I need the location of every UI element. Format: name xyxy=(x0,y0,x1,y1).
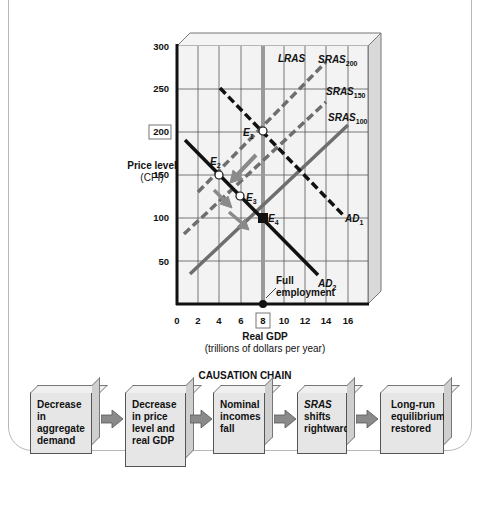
chain-arrow-1 xyxy=(101,410,123,428)
chain-step-3: Nominalincomesfall xyxy=(213,392,265,454)
point-full-employment xyxy=(259,300,267,308)
svg-text:50: 50 xyxy=(158,256,169,267)
x-axis-label: Real GDP (trillions of dollars per year) xyxy=(160,331,370,355)
point-e1 xyxy=(259,127,267,135)
chain-arrow-2 xyxy=(190,410,212,428)
svg-text:10: 10 xyxy=(279,315,290,326)
svg-text:8: 8 xyxy=(260,315,265,326)
label-employment: employment xyxy=(276,287,336,298)
chain-step-2: Decreasein pricelevel andreal GDP xyxy=(125,392,186,467)
svg-text:200: 200 xyxy=(153,126,169,137)
svg-text:16: 16 xyxy=(343,315,354,326)
label-lras: LRAS xyxy=(278,53,306,64)
point-e2 xyxy=(215,171,223,179)
y-tick-labels: 300 250 200 150 100 50 xyxy=(153,41,169,267)
chain-arrow-3 xyxy=(274,410,296,428)
y-axis-label: Price level (CPI) xyxy=(112,160,192,184)
svg-text:0: 0 xyxy=(174,315,179,326)
svg-text:250: 250 xyxy=(153,83,169,94)
svg-text:4: 4 xyxy=(216,315,222,326)
chain-arrow-4 xyxy=(356,410,378,428)
chain-step-4: SRASshiftsrightward xyxy=(297,392,347,454)
chain-step-1: Decrease inaggregatedemand xyxy=(30,392,92,454)
plot-box-top xyxy=(177,33,381,46)
svg-text:6: 6 xyxy=(238,315,243,326)
point-e3 xyxy=(236,192,244,200)
causation-chain-title: CAUSATION CHAIN xyxy=(150,370,340,381)
svg-text:300: 300 xyxy=(153,41,169,52)
x-tick-labels: 0 2 4 6 8 10 12 14 16 xyxy=(174,315,353,326)
svg-text:14: 14 xyxy=(321,315,332,326)
svg-text:100: 100 xyxy=(153,212,169,223)
chain-step-5: Long-runequilibriumrestored xyxy=(380,392,444,454)
point-e4 xyxy=(258,213,268,223)
plot-box-side xyxy=(368,33,381,304)
svg-text:12: 12 xyxy=(300,315,311,326)
svg-text:2: 2 xyxy=(195,315,200,326)
label-full: Full xyxy=(276,275,294,286)
